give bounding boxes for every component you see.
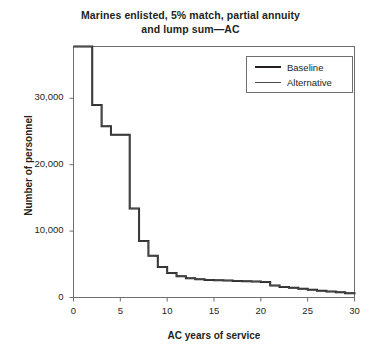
legend-entry-alternative: Alternative: [255, 75, 332, 89]
x-tick-label: 0: [59, 305, 89, 316]
x-tick-label: 25: [293, 305, 323, 316]
y-axis-tick-marks: [70, 98, 74, 297]
legend-swatch-baseline-icon: [255, 66, 281, 68]
legend-label-alternative: Alternative: [287, 77, 332, 88]
x-tick-label: 30: [340, 305, 370, 316]
chart-legend: Baseline Alternative: [246, 56, 353, 93]
legend-label-baseline: Baseline: [287, 62, 323, 73]
chart-figure: Marines enlisted, 5% match, partial annu…: [0, 0, 381, 361]
y-tick-label: 20,000: [12, 158, 64, 169]
y-tick-label: 30,000: [12, 91, 64, 102]
legend-swatch-alternative-icon: [255, 82, 281, 83]
x-tick-label: 10: [152, 305, 182, 316]
x-tick-label: 20: [246, 305, 276, 316]
x-tick-label: 15: [199, 305, 229, 316]
x-tick-label: 5: [105, 305, 135, 316]
plot-area: [0, 0, 381, 361]
legend-entry-baseline: Baseline: [255, 60, 323, 74]
y-tick-label: 0: [12, 291, 64, 302]
y-tick-label: 10,000: [12, 224, 64, 235]
x-axis-tick-marks: [74, 298, 355, 302]
